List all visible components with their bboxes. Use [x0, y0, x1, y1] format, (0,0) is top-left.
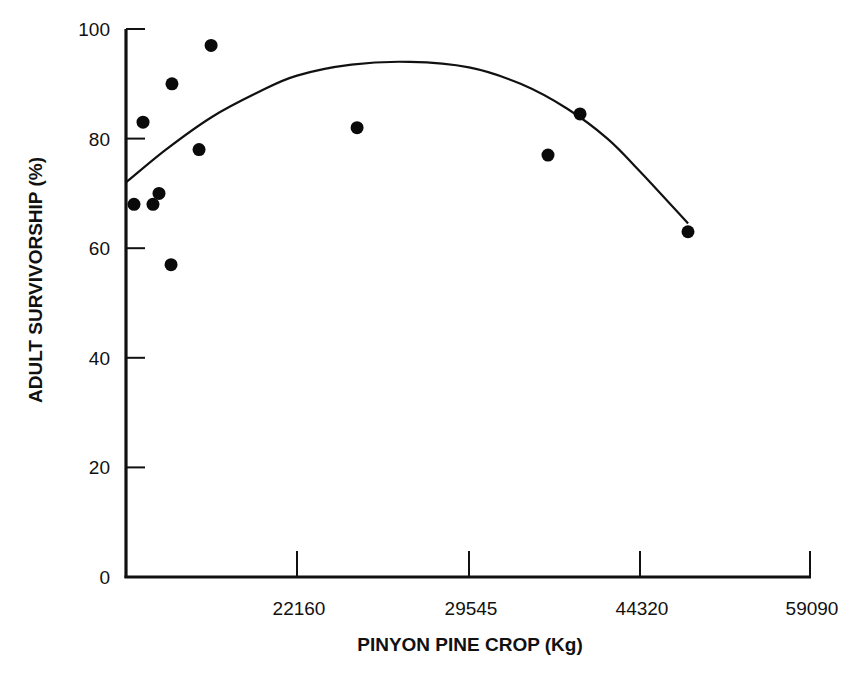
data-points	[127, 39, 694, 271]
data-point	[681, 225, 694, 238]
data-point	[541, 149, 554, 162]
data-point	[127, 198, 140, 211]
data-point	[152, 187, 165, 200]
y-tick-label: 60	[89, 238, 110, 259]
y-tick-label: 20	[89, 457, 110, 478]
y-tick-label: 40	[89, 348, 110, 369]
x-axis-title: PINYON PINE CROP (Kg)	[357, 634, 583, 655]
data-point	[574, 107, 587, 120]
y-axis: 020406080100	[78, 19, 145, 588]
data-point	[165, 258, 178, 271]
y-tick-label: 0	[99, 567, 110, 588]
x-tick-label: 29545	[445, 598, 498, 619]
data-point	[205, 39, 218, 52]
x-tick-label: 44320	[616, 598, 669, 619]
fitted-curve	[126, 62, 688, 224]
data-point	[351, 121, 364, 134]
data-point	[146, 198, 159, 211]
plot-area	[126, 39, 694, 271]
data-point	[137, 116, 150, 129]
data-point	[193, 143, 206, 156]
data-point	[165, 77, 178, 90]
y-ticks: 020406080100	[78, 19, 145, 588]
y-tick-label: 100	[78, 19, 110, 40]
x-tick-label: 22160	[273, 598, 326, 619]
scatter-chart: 020406080100 22160295454432059090 PINYON…	[0, 0, 862, 673]
x-tick-label: 59090	[786, 598, 839, 619]
x-axis: 22160295454432059090	[125, 551, 839, 619]
y-tick-label: 80	[89, 129, 110, 150]
x-ticks: 22160295454432059090	[273, 551, 839, 619]
y-axis-title: ADULT SURVIVORSHIP (%)	[25, 157, 46, 403]
